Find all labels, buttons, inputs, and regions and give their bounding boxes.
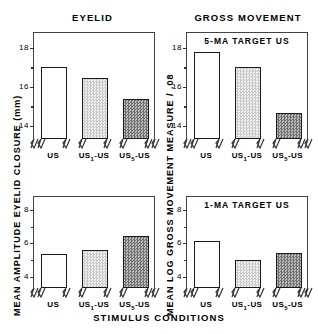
chart-panel-top-left: 141618 — [33, 32, 155, 139]
axis-break-mark — [231, 138, 240, 148]
axis-break-mark — [304, 287, 313, 297]
axis-break-mark — [272, 138, 281, 148]
axis-break-mark — [103, 287, 112, 297]
column-title-gross-movement: GROSS MOVEMENT — [183, 12, 313, 23]
axis-break-mark — [119, 287, 128, 297]
plot-area: 1416185-MA TARGET US — [186, 32, 308, 139]
figure-canvas: EYELID GROSS MOVEMENT MEAN AMPLITUDE EYE… — [0, 0, 318, 334]
axis-break-mark — [272, 287, 281, 297]
bar-3 — [123, 99, 149, 139]
bar-3 — [276, 253, 302, 288]
bar-3 — [276, 113, 302, 139]
panel-annotation: 5-MA TARGET US — [187, 36, 307, 46]
axis-break-mark — [151, 287, 160, 297]
x-tick-label: US5-US — [258, 300, 318, 311]
y-axis-label-right: MEAN LOG GROSS MOVEMENT MEASURE / .08 — [165, 73, 175, 316]
axis-break-mark — [215, 138, 224, 148]
axis-break-mark — [30, 287, 39, 297]
bar-3 — [123, 236, 149, 288]
axis-break-mark — [62, 287, 71, 297]
bar-1 — [194, 241, 220, 288]
bar-1 — [41, 254, 67, 288]
axis-break-mark — [256, 138, 265, 148]
chart-panel-top-right: 1416185-MA TARGET US — [186, 32, 308, 139]
chart-panel-bottom-left: 468 — [33, 196, 155, 288]
axis-break-mark — [103, 138, 112, 148]
axis-break-mark — [78, 138, 87, 148]
axis-break-mark — [119, 138, 128, 148]
plot-area: 141618 — [33, 32, 155, 139]
plot-area: 468 — [33, 196, 155, 288]
bar-2 — [82, 250, 108, 288]
panel-annotation: 1-MA TARGET US — [187, 200, 307, 210]
axis-break-mark — [62, 138, 71, 148]
chart-panel-bottom-right: 4681-MA TARGET US — [186, 196, 308, 288]
axis-break-mark — [183, 287, 192, 297]
bar-2 — [82, 78, 108, 139]
axis-break-mark — [30, 138, 39, 148]
axis-break-mark — [304, 138, 313, 148]
x-tick-label: US5-US — [105, 300, 165, 311]
bar-2 — [235, 67, 261, 139]
x-tick-label: US5-US — [105, 151, 165, 162]
x-tick-label: US5-US — [258, 151, 318, 162]
axis-break-mark — [183, 138, 192, 148]
plot-area: 4681-MA TARGET US — [186, 196, 308, 288]
axis-break-mark — [256, 287, 265, 297]
bar-1 — [194, 52, 220, 139]
x-axis-label: STIMULUS CONDITIONS — [0, 312, 318, 323]
bar-1 — [41, 67, 67, 139]
axis-break-mark — [231, 287, 240, 297]
axis-break-mark — [215, 287, 224, 297]
axis-break-mark — [151, 138, 160, 148]
axis-break-mark — [78, 287, 87, 297]
column-title-eyelid: EYELID — [30, 12, 155, 23]
bar-2 — [235, 260, 261, 288]
